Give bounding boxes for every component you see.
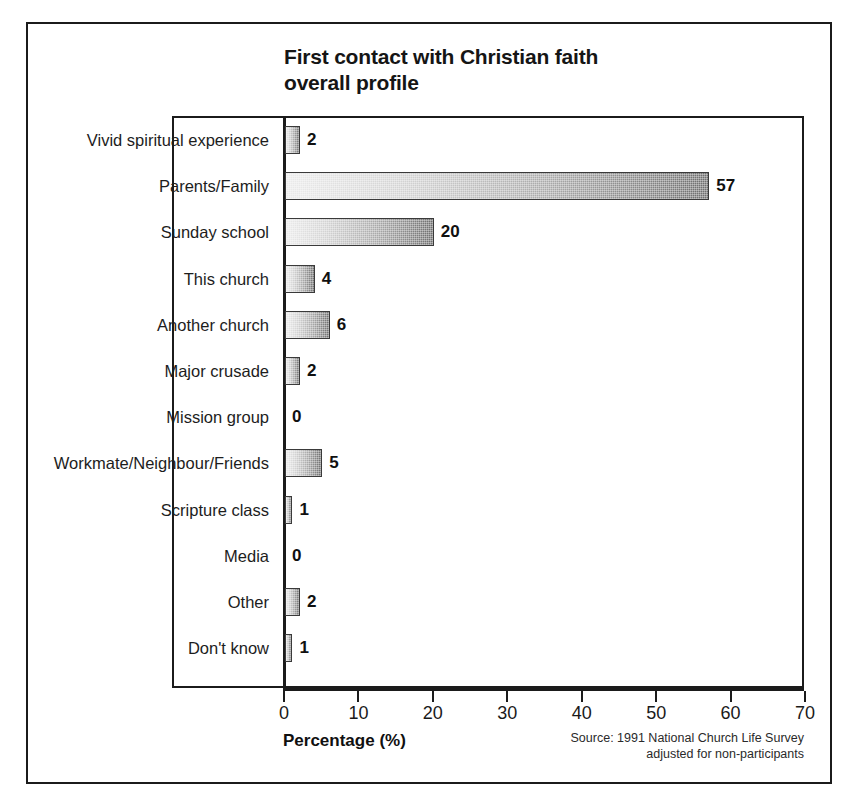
bar-row: This church4 — [172, 265, 804, 311]
category-label: Sunday school — [161, 218, 269, 246]
bar-row: Other2 — [172, 588, 804, 634]
bar-row: Don't know1 — [172, 634, 804, 680]
bar-row: Vivid spiritual experience2 — [172, 126, 804, 172]
x-axis-title: Percentage (%) — [283, 731, 406, 751]
bar-value-label: 57 — [716, 172, 735, 200]
category-label: Another church — [157, 311, 269, 339]
x-tick-label: 70 — [775, 703, 835, 724]
x-tick-label: 60 — [701, 703, 761, 724]
category-label: Don't know — [188, 634, 269, 662]
bar-row: Major crusade2 — [172, 357, 804, 403]
chart-figure: First contact with Christian faith overa… — [0, 0, 848, 802]
x-tick-mark — [730, 691, 732, 702]
bar-row: Mission group0 — [172, 403, 804, 449]
bar — [285, 172, 709, 200]
x-tick-label: 30 — [477, 703, 537, 724]
x-tick-label: 40 — [552, 703, 612, 724]
bar-row: Sunday school20 — [172, 218, 804, 264]
x-tick-label: 10 — [328, 703, 388, 724]
category-label: Major crusade — [164, 357, 269, 385]
category-label: Parents/Family — [159, 172, 269, 200]
bar-value-label: 1 — [299, 496, 308, 524]
bar — [285, 634, 292, 662]
x-tick-mark — [357, 691, 359, 702]
category-label: Other — [228, 588, 269, 616]
source-note: Source: 1991 National Church Life Survey… — [484, 730, 804, 762]
bar-value-label: 5 — [329, 449, 338, 477]
bar-rows: Vivid spiritual experience2Parents/Famil… — [172, 116, 804, 688]
bar-row: Workmate/Neighbour/Friends5 — [172, 449, 804, 495]
plot-area: Vivid spiritual experience2Parents/Famil… — [172, 116, 804, 688]
value-axis-line — [283, 688, 804, 691]
x-tick-mark — [655, 691, 657, 702]
bar-row: Another church6 — [172, 311, 804, 357]
bar — [285, 357, 300, 385]
bar-row: Scripture class1 — [172, 496, 804, 542]
bar-row: Parents/Family57 — [172, 172, 804, 218]
bar-value-label: 1 — [299, 634, 308, 662]
bar — [285, 126, 300, 154]
x-tick-mark — [804, 691, 806, 702]
bar — [285, 218, 434, 246]
x-tick-mark — [432, 691, 434, 702]
bar-value-label: 0 — [292, 403, 301, 431]
bar — [285, 588, 300, 616]
bar-value-label: 20 — [441, 218, 460, 246]
bar — [285, 449, 322, 477]
bar-value-label: 2 — [307, 126, 316, 154]
category-label: This church — [184, 265, 269, 293]
bar — [285, 496, 292, 524]
bar-value-label: 2 — [307, 588, 316, 616]
bar — [285, 311, 330, 339]
x-tick-mark — [506, 691, 508, 702]
bar — [285, 265, 315, 293]
category-label: Scripture class — [161, 496, 269, 524]
x-tick-label: 0 — [254, 703, 314, 724]
bar-value-label: 2 — [307, 357, 316, 385]
bar-value-label: 0 — [292, 542, 301, 570]
category-label: Vivid spiritual experience — [87, 126, 269, 154]
x-tick-label: 50 — [626, 703, 686, 724]
bar-value-label: 6 — [337, 311, 346, 339]
x-tick-mark — [283, 691, 285, 702]
category-label: Workmate/Neighbour/Friends — [54, 449, 269, 477]
x-tick-label: 20 — [403, 703, 463, 724]
x-tick-mark — [581, 691, 583, 702]
chart-title: First contact with Christian faith overa… — [284, 44, 764, 96]
bar-value-label: 4 — [322, 265, 331, 293]
bar-row: Media0 — [172, 542, 804, 588]
category-label: Media — [224, 542, 269, 570]
category-label: Mission group — [166, 403, 269, 431]
